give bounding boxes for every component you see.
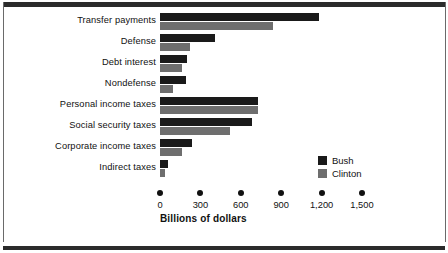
chart-row: Personal income taxes (0, 96, 448, 117)
x-axis-tick-mark (278, 190, 284, 196)
legend-label: Bush (332, 155, 354, 166)
bar-group (160, 33, 445, 54)
category-label: Indirect taxes (16, 162, 156, 172)
category-label: Debt interest (16, 57, 156, 67)
bar-group (160, 117, 445, 138)
bar-group (160, 12, 445, 33)
bar-bush (160, 160, 168, 168)
x-axis-tick-mark (238, 190, 244, 196)
bar-bush (160, 118, 252, 126)
legend-label: Clinton (332, 168, 362, 179)
category-label: Personal income taxes (16, 99, 156, 109)
chart-row: Nondefense (0, 75, 448, 96)
x-axis-tick-mark (157, 190, 163, 196)
x-axis-tick-mark (197, 190, 203, 196)
bar-clinton (160, 169, 165, 177)
bar-group (160, 75, 445, 96)
legend-item: Clinton (318, 167, 362, 180)
chart-row: Transfer payments (0, 12, 448, 33)
legend-swatch-icon (318, 169, 327, 178)
chart-row: Corporate income taxes (0, 138, 448, 159)
chart-row: Debt interest (0, 54, 448, 75)
category-label: Nondefense (16, 78, 156, 88)
bar-clinton (160, 22, 273, 30)
bar-bush (160, 139, 192, 147)
bar-clinton (160, 148, 182, 156)
x-axis-tick-mark (359, 190, 365, 196)
category-label: Defense (16, 36, 156, 46)
bar-clinton (160, 85, 173, 93)
legend-swatch-icon (318, 156, 327, 165)
x-axis-tick-label: 1,500 (332, 200, 392, 210)
bar-bush (160, 55, 187, 63)
chart-row: Defense (0, 33, 448, 54)
bar-bush (160, 34, 215, 42)
category-label: Social security taxes (16, 120, 156, 130)
category-label: Transfer payments (16, 15, 156, 25)
bar-bush (160, 13, 319, 21)
bar-group (160, 138, 445, 159)
legend-item: Bush (318, 154, 362, 167)
bar-clinton (160, 43, 190, 51)
x-axis-title: Billions of dollars (160, 213, 247, 224)
chart-row: Social security taxes (0, 117, 448, 138)
x-axis-tick-mark (319, 190, 325, 196)
chart-figure: Transfer paymentsDefenseDebt interestNon… (0, 0, 448, 253)
chart-legend: BushClinton (318, 154, 362, 180)
category-label: Corporate income taxes (16, 141, 156, 151)
bar-group (160, 96, 445, 117)
bar-bush (160, 97, 258, 105)
bar-group (160, 54, 445, 75)
x-axis: 03006009001,2001,500 (160, 190, 445, 230)
bar-clinton (160, 127, 230, 135)
bar-clinton (160, 106, 258, 114)
bar-clinton (160, 64, 182, 72)
bar-bush (160, 76, 186, 84)
bar-group (160, 159, 445, 180)
chart-row: Indirect taxes (0, 159, 448, 180)
